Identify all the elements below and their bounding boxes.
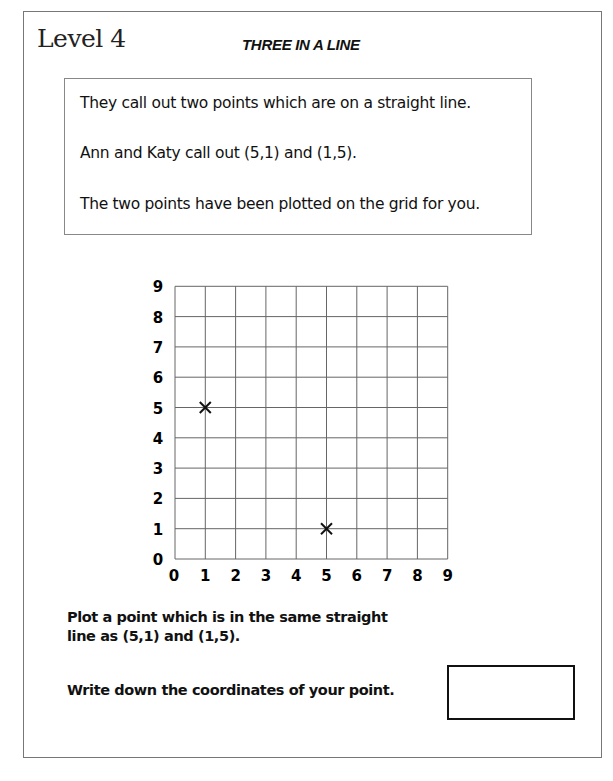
x-tick-label: 1: [200, 567, 210, 585]
question-plot-line-2: line as (5,1) and (1,5).: [67, 628, 240, 644]
answer-box[interactable]: [447, 665, 575, 720]
x-tick-label: 6: [352, 567, 362, 585]
x-tick-label: 4: [291, 567, 301, 585]
y-tick-label: 1: [153, 521, 163, 539]
y-tick-label: 9: [153, 278, 163, 296]
y-tick-label: 4: [153, 430, 163, 448]
x-tick-label: 0: [169, 567, 179, 585]
x-tick-label: 7: [382, 567, 392, 585]
y-tick-label: 6: [153, 369, 163, 387]
y-tick-label: 8: [153, 309, 163, 327]
y-tick-label: 2: [153, 490, 163, 508]
y-tick-label: 5: [153, 400, 163, 418]
question-plot-line-1: Plot a point which is in the same straig…: [67, 609, 387, 625]
x-tick-label: 2: [230, 567, 240, 585]
coordinate-grid[interactable]: 01234567890123456789: [0, 0, 613, 600]
y-tick-label: 3: [153, 460, 163, 478]
x-tick-label: 8: [412, 567, 422, 585]
y-tick-label: 7: [153, 339, 163, 357]
x-tick-label: 5: [321, 567, 331, 585]
x-tick-label: 3: [261, 567, 271, 585]
x-tick-label: 9: [442, 567, 452, 585]
question-write: Write down the coordinates of your point…: [67, 682, 394, 698]
y-tick-label: 0: [153, 551, 163, 569]
